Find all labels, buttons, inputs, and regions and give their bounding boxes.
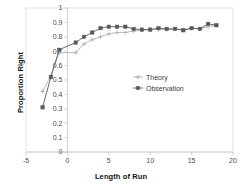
data-point bbox=[57, 48, 60, 51]
data-point bbox=[115, 25, 118, 28]
legend-label-observation: Observation bbox=[146, 85, 184, 92]
y-tick-label: 0.5 bbox=[53, 76, 63, 83]
data-point bbox=[173, 27, 176, 30]
y-tick-label: 0 bbox=[58, 148, 62, 155]
y-tick-label: 0.4 bbox=[53, 91, 63, 98]
data-point bbox=[140, 28, 143, 31]
data-point bbox=[149, 28, 152, 31]
data-point bbox=[182, 29, 185, 32]
data-point bbox=[107, 25, 110, 28]
y-tick-label: 0.1 bbox=[53, 134, 63, 141]
x-tick-label: 0 bbox=[65, 157, 69, 164]
x-tick-label: 5 bbox=[107, 157, 111, 164]
chart-container: Proportion Right Length of Run 00.10.20.… bbox=[0, 0, 242, 187]
data-point bbox=[74, 41, 77, 44]
data-point bbox=[41, 106, 44, 109]
data-point bbox=[206, 22, 209, 25]
x-tick-label: 20 bbox=[229, 157, 237, 164]
y-tick-label: 0.8 bbox=[53, 33, 63, 40]
data-point bbox=[190, 26, 193, 29]
y-tick-label: 0.3 bbox=[53, 105, 63, 112]
x-tick-label: -5 bbox=[23, 157, 29, 164]
data-point bbox=[215, 24, 218, 27]
data-point bbox=[165, 27, 168, 30]
data-point bbox=[82, 35, 85, 38]
data-point bbox=[198, 27, 201, 30]
y-tick-label: 0.9 bbox=[53, 19, 63, 26]
y-tick-label: 1 bbox=[58, 4, 62, 11]
data-point bbox=[157, 26, 160, 29]
x-tick-label: 15 bbox=[188, 157, 196, 164]
plot-area: 00.10.20.30.40.50.60.70.80.91-505101520T… bbox=[0, 0, 242, 187]
data-point bbox=[132, 27, 135, 30]
data-point bbox=[49, 75, 52, 78]
legend-label-theory: Theory bbox=[146, 74, 168, 82]
data-point bbox=[99, 26, 102, 29]
y-tick-label: 0.2 bbox=[53, 120, 63, 127]
x-tick-label: 10 bbox=[146, 157, 154, 164]
data-point bbox=[91, 31, 94, 34]
data-point bbox=[136, 86, 139, 89]
data-point bbox=[124, 25, 127, 28]
